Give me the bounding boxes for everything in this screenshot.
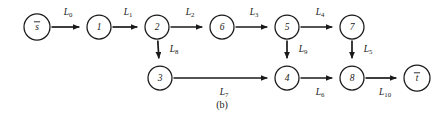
- edge-label-l3: L3: [249, 7, 259, 18]
- edge-label-l0: L0: [63, 7, 73, 18]
- figure-container: L0L1L2L3L4L8L9L5L7L6L10 s12657348t (b): [0, 0, 445, 121]
- edge-label-l1: L1: [123, 7, 133, 18]
- graph-node-5[interactable]: 5: [275, 15, 299, 39]
- edge-label-subscript: 9: [304, 48, 308, 55]
- graph-node-1[interactable]: 1: [87, 15, 111, 39]
- edge-label-l8: L8: [169, 44, 179, 55]
- graph-node-2[interactable]: 2: [145, 15, 169, 39]
- node-label-1: 1: [97, 22, 102, 32]
- edge-arrow-l8: [158, 40, 159, 58]
- edge-label-subscript: 10: [384, 91, 391, 98]
- graph-node-7[interactable]: 7: [340, 15, 364, 39]
- graph-node-t[interactable]: t: [404, 65, 430, 91]
- edge-label-subscript: 7: [225, 91, 229, 98]
- edge-label-subscript: 6: [321, 91, 325, 98]
- edge-label-subscript: 5: [369, 48, 373, 55]
- edge-label-l9: L9: [298, 44, 308, 55]
- graph-edge: [158, 40, 159, 58]
- edge-label-subscript: 2: [191, 11, 195, 18]
- edge-label-subscript: 3: [255, 11, 259, 18]
- graph-node-8[interactable]: 8: [340, 66, 364, 90]
- edge-label-l7: L7: [219, 87, 229, 98]
- caption-layer: (b): [216, 99, 228, 111]
- directed-graph-diagram: L0L1L2L3L4L8L9L5L7L6L10 s12657348t (b): [0, 0, 445, 121]
- node-label-s: s: [35, 22, 39, 32]
- node-label-5: 5: [285, 22, 290, 32]
- edge-label-l5: L5: [363, 44, 373, 55]
- node-label-8: 8: [350, 73, 355, 83]
- edge-label-subscript: 1: [129, 11, 132, 18]
- node-label-t: t: [416, 73, 419, 83]
- graph-node-s[interactable]: s: [24, 14, 50, 40]
- edge-label-subscript: 8: [175, 48, 179, 55]
- graph-node-4[interactable]: 4: [275, 66, 299, 90]
- figure-caption: (b): [216, 99, 228, 111]
- node-label-4: 4: [285, 73, 290, 83]
- graph-node-3[interactable]: 3: [148, 66, 172, 90]
- node-label-3: 3: [157, 73, 163, 83]
- node-label-2: 2: [155, 22, 160, 32]
- edge-label-l4: L4: [315, 7, 325, 18]
- node-label-6: 6: [220, 22, 225, 32]
- edge-label-l10: L10: [378, 87, 392, 98]
- graph-node-6[interactable]: 6: [210, 15, 234, 39]
- edge-label-subscript: 4: [321, 11, 325, 18]
- edge-label-l2: L2: [185, 7, 195, 18]
- edge-label-l6: L6: [315, 87, 325, 98]
- edge-label-subscript: 0: [69, 11, 73, 18]
